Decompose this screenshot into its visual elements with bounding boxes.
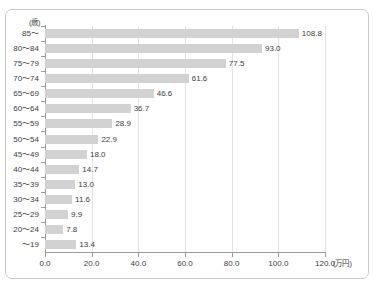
bar bbox=[45, 240, 76, 249]
y-axis-category-text: 55～59 bbox=[13, 118, 39, 129]
bar-row: 28.9 bbox=[45, 119, 325, 128]
clipped-title-remnant bbox=[0, 0, 374, 7]
y-axis-category-label: 20～24 bbox=[0, 224, 39, 235]
y-axis-category-label: 60～64 bbox=[0, 103, 39, 114]
y-axis-tick bbox=[41, 237, 45, 238]
bar-value-label: 13.0 bbox=[78, 179, 94, 190]
bar-row: 36.7 bbox=[45, 104, 325, 113]
y-axis-category-label: 40～44 bbox=[0, 164, 39, 175]
y-axis-tick bbox=[41, 162, 45, 163]
bar-row: 9.9 bbox=[45, 210, 325, 219]
y-axis-category-label: 35～39 bbox=[0, 179, 39, 190]
x-axis-tick bbox=[45, 253, 46, 257]
bar bbox=[45, 44, 262, 53]
y-axis-tick bbox=[41, 26, 45, 27]
bar-value-label: 7.8 bbox=[66, 224, 77, 235]
bar-value-label: 36.7 bbox=[134, 103, 150, 114]
bar-value-label: 108.8 bbox=[302, 28, 322, 39]
y-axis-category-text: 20～24 bbox=[13, 224, 39, 235]
y-axis-tick bbox=[41, 177, 45, 178]
y-axis-category-label: 75～79 bbox=[0, 58, 39, 69]
y-axis-unit-label: (歳) bbox=[29, 16, 40, 27]
bar-value-label: 61.6 bbox=[192, 73, 208, 84]
y-axis-tick bbox=[41, 86, 45, 87]
y-axis-category-label: 50～54 bbox=[0, 134, 39, 145]
y-axis-tick bbox=[41, 207, 45, 208]
bar-row: 93.0 bbox=[45, 44, 325, 53]
y-axis-category-text: 40～44 bbox=[13, 164, 39, 175]
y-axis-category-text: 85～ bbox=[22, 28, 39, 39]
x-axis-unit-label: (万円) bbox=[333, 258, 352, 269]
bar-row: 13.4 bbox=[45, 240, 325, 249]
x-axis-tick bbox=[138, 253, 139, 257]
y-axis-tick bbox=[41, 192, 45, 193]
y-axis-category-label: 45～49 bbox=[0, 149, 39, 160]
y-axis-category-text: 35～39 bbox=[13, 179, 39, 190]
y-axis-category-label: 25～29 bbox=[0, 209, 39, 220]
bar-value-label: 13.4 bbox=[79, 239, 95, 250]
bar-row: 22.9 bbox=[45, 135, 325, 144]
bar bbox=[45, 180, 75, 189]
y-axis-category-text: 75～79 bbox=[13, 58, 39, 69]
y-axis-tick bbox=[41, 147, 45, 148]
bar bbox=[45, 195, 72, 204]
bar-value-label: 77.5 bbox=[229, 58, 245, 69]
bar-row: 11.6 bbox=[45, 195, 325, 204]
x-axis-tick bbox=[185, 253, 186, 257]
bar bbox=[45, 210, 68, 219]
bar-value-label: 9.9 bbox=[71, 209, 82, 220]
y-axis-tick bbox=[41, 131, 45, 132]
x-axis-tick bbox=[232, 253, 233, 257]
chart-screenshot: (歳) 108.893.077.561.646.636.728.922.918.… bbox=[0, 0, 374, 285]
x-axis-tick-label: 100.0 bbox=[258, 258, 298, 269]
y-axis-category-text: ～19 bbox=[22, 239, 39, 250]
bar-row: 18.0 bbox=[45, 150, 325, 159]
y-axis-tick bbox=[41, 101, 45, 102]
bar-row: 77.5 bbox=[45, 59, 325, 68]
bar-row: 7.8 bbox=[45, 225, 325, 234]
bar-row: 46.6 bbox=[45, 89, 325, 98]
y-axis-category-text: 70～74 bbox=[13, 73, 39, 84]
y-axis-tick bbox=[41, 116, 45, 117]
x-axis-tick bbox=[278, 253, 279, 257]
y-axis-category-label: 30～34 bbox=[0, 194, 39, 205]
y-axis-category-text: 65～69 bbox=[13, 88, 39, 99]
x-axis-tick bbox=[92, 253, 93, 257]
bar-row: 108.8 bbox=[45, 29, 325, 38]
bar-row: 61.6 bbox=[45, 74, 325, 83]
y-axis-category-label: 55～59 bbox=[0, 118, 39, 129]
x-axis-tick-label: 40.0 bbox=[118, 258, 158, 269]
y-axis-tick bbox=[41, 56, 45, 57]
y-axis-category-text: 30～34 bbox=[13, 194, 39, 205]
x-axis-tick-label: 20.0 bbox=[72, 258, 112, 269]
bar bbox=[45, 165, 79, 174]
y-axis-category-text: 80～84 bbox=[13, 43, 39, 54]
bar-value-label: 93.0 bbox=[265, 43, 281, 54]
y-axis-category-label: ～19 bbox=[0, 239, 39, 250]
bar bbox=[45, 59, 226, 68]
bar-value-label: 22.9 bbox=[101, 134, 117, 145]
gridline bbox=[325, 26, 326, 252]
bar-value-label: 14.7 bbox=[82, 164, 98, 175]
y-axis-tick bbox=[41, 222, 45, 223]
y-axis-category-text: 25～29 bbox=[13, 209, 39, 220]
bar bbox=[45, 119, 112, 128]
bar-value-label: 28.9 bbox=[115, 118, 131, 129]
bar bbox=[45, 225, 63, 234]
x-axis-tick-label: 0.0 bbox=[25, 258, 65, 269]
bar-value-label: 18.0 bbox=[90, 149, 106, 160]
bar bbox=[45, 104, 131, 113]
bar-row: 14.7 bbox=[45, 165, 325, 174]
x-axis-tick-label: 80.0 bbox=[212, 258, 252, 269]
y-axis-category-label: 80～84 bbox=[0, 43, 39, 54]
bar bbox=[45, 89, 154, 98]
y-axis-category-label: 70～74 bbox=[0, 73, 39, 84]
y-axis-tick bbox=[41, 41, 45, 42]
plot-area: 108.893.077.561.646.636.728.922.918.014.… bbox=[45, 26, 325, 252]
y-axis-category-label: 65～69 bbox=[0, 88, 39, 99]
bar bbox=[45, 150, 87, 159]
bar bbox=[45, 135, 98, 144]
y-axis-category-text: 50～54 bbox=[13, 134, 39, 145]
bar bbox=[45, 29, 299, 38]
bar bbox=[45, 74, 189, 83]
